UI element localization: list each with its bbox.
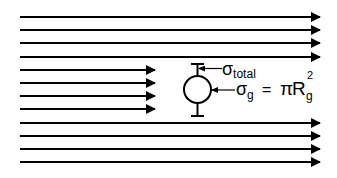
- particle-circle: [184, 76, 211, 103]
- flux-lines-top: [20, 17, 320, 57]
- particle: [184, 64, 211, 116]
- flux-lines-bottom: [20, 123, 320, 162]
- radius-subscript: g: [306, 89, 313, 103]
- equals-sign: =: [262, 81, 271, 98]
- radius-superscript: 2: [307, 69, 313, 81]
- radius-symbol: R: [292, 78, 306, 99]
- sigma-g-label: σg: [236, 79, 254, 102]
- flux-lines-short: [20, 70, 155, 109]
- sigma-total-label: σtotal: [222, 59, 256, 81]
- cross-section-diagram: σtotal σg = π R g 2: [0, 0, 337, 178]
